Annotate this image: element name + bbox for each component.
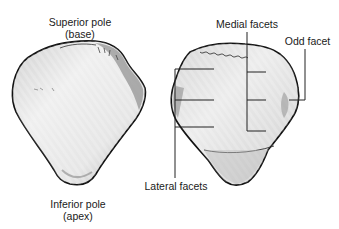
patella-anterior-view	[12, 41, 145, 185]
superior-pole-line1: Superior pole	[40, 16, 120, 28]
inferior-pole-line1: Inferior pole	[38, 198, 118, 210]
medial-facets-label: Medial facets	[207, 18, 287, 30]
superior-pole-line2: (base)	[40, 28, 120, 40]
lateral-facets-label: Lateral facets	[140, 180, 212, 192]
inferior-pole-label: Inferior pole (apex)	[38, 198, 118, 222]
patella-posterior-view	[171, 43, 299, 185]
odd-facet-label: Odd facet	[280, 35, 335, 47]
inferior-pole-line2: (apex)	[38, 210, 118, 222]
superior-pole-label: Superior pole (base)	[40, 16, 120, 40]
